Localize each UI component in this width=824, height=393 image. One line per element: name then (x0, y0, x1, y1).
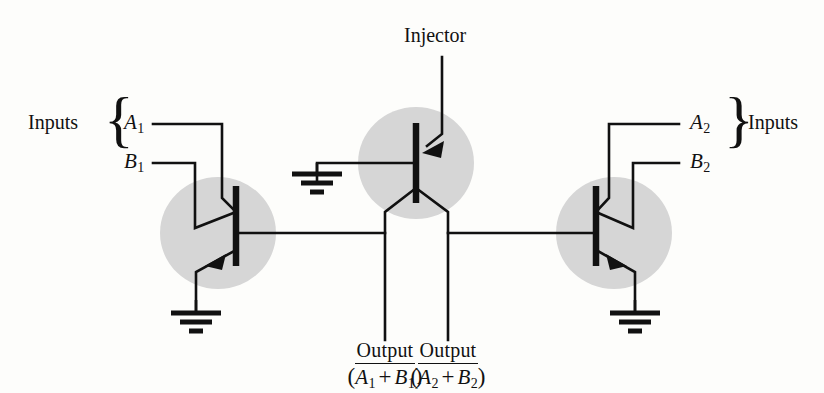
signal-a1-name: A (124, 110, 137, 134)
output-2-word: Output (374, 339, 522, 362)
signal-label-a1: A1 (124, 112, 144, 136)
ground-left (171, 300, 221, 331)
circuit-schematic-canvas (0, 0, 824, 393)
signal-b2-name: B (690, 149, 703, 173)
output-2-term2-name: B (457, 365, 470, 389)
signal-b1-subscript: 1 (137, 160, 145, 175)
signal-label-a2: A2 (690, 112, 710, 136)
output-2-term1-name: A (418, 365, 431, 389)
output-label-2: Output (A2+B2) (374, 339, 522, 392)
signal-a1-subscript: 1 (137, 121, 145, 136)
output-2-operator: + (439, 364, 458, 389)
output-2-term2: B2 (457, 365, 477, 389)
inputs-label-right: Inputs (748, 112, 798, 132)
output-2-expression: (A2+B2) (374, 363, 522, 392)
injector-label: Injector (404, 25, 466, 45)
signal-a2-subscript: 2 (703, 121, 711, 136)
ground-right (610, 300, 660, 331)
signal-b1-name: B (124, 149, 137, 173)
signal-label-b1: B1 (124, 151, 144, 175)
output-2-term1-sub: 2 (431, 376, 439, 391)
output-2-term2-sub: 2 (470, 376, 478, 391)
signal-label-b2: B2 (690, 151, 710, 175)
transistor-base-bars (236, 123, 596, 266)
output-2-close-paren: ) (478, 364, 486, 389)
output-2-overbar-group: A2+B2 (418, 363, 478, 392)
circuit-diagram-figure: Inputs { A1 B1 Injector A2 B2 } Inputs O… (0, 0, 824, 393)
output-1-term1-name: A (355, 365, 368, 389)
output-2-term1: A2 (418, 365, 438, 389)
inputs-label-left: Inputs (28, 112, 78, 132)
signal-a2-name: A (690, 110, 703, 134)
signal-b2-subscript: 2 (703, 160, 711, 175)
output-1-term1: A1 (355, 365, 375, 389)
